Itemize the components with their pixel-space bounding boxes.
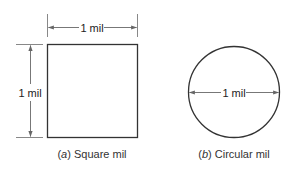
caption-circular-mil: (b) Circular mil bbox=[198, 148, 270, 160]
top-dimension-label: 1 mil bbox=[80, 22, 103, 34]
caption-square-mil: (a) Square mil bbox=[57, 148, 126, 160]
side-dimension-label: 1 mil bbox=[18, 87, 41, 99]
diameter-label: 1 mil bbox=[222, 87, 245, 99]
panel-square-mil: 1 mil 1 mil (a) Square mil bbox=[16, 14, 138, 160]
square-shape bbox=[48, 45, 138, 138]
panel-circular-mil: 1 mil (b) Circular mil bbox=[189, 47, 280, 161]
figure-canvas: 1 mil 1 mil (a) Square mil 1 mil (b) Cir… bbox=[0, 0, 293, 170]
caption-text: Square mil bbox=[71, 148, 127, 160]
caption-text: Circular mil bbox=[212, 148, 270, 160]
